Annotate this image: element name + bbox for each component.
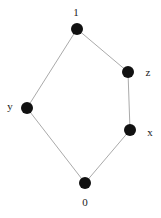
node-label-1: 1 bbox=[73, 6, 79, 18]
node-y bbox=[21, 102, 33, 114]
node-z bbox=[122, 66, 134, 78]
edge-y-0 bbox=[27, 108, 85, 183]
edges bbox=[27, 29, 130, 183]
node-label-z: z bbox=[146, 66, 151, 78]
node-label-y: y bbox=[7, 100, 13, 112]
node-label-0: 0 bbox=[82, 196, 88, 208]
edge-z-x bbox=[128, 72, 130, 130]
node-x bbox=[124, 124, 136, 136]
edge-1-z bbox=[77, 29, 128, 72]
node-1 bbox=[71, 23, 83, 35]
edge-1-y bbox=[27, 29, 77, 108]
node-label-x: x bbox=[147, 126, 153, 138]
edge-x-0 bbox=[85, 130, 130, 183]
node-0 bbox=[79, 177, 91, 189]
hasse-diagram: 1zyx0 bbox=[0, 0, 161, 218]
nodes bbox=[21, 23, 136, 189]
